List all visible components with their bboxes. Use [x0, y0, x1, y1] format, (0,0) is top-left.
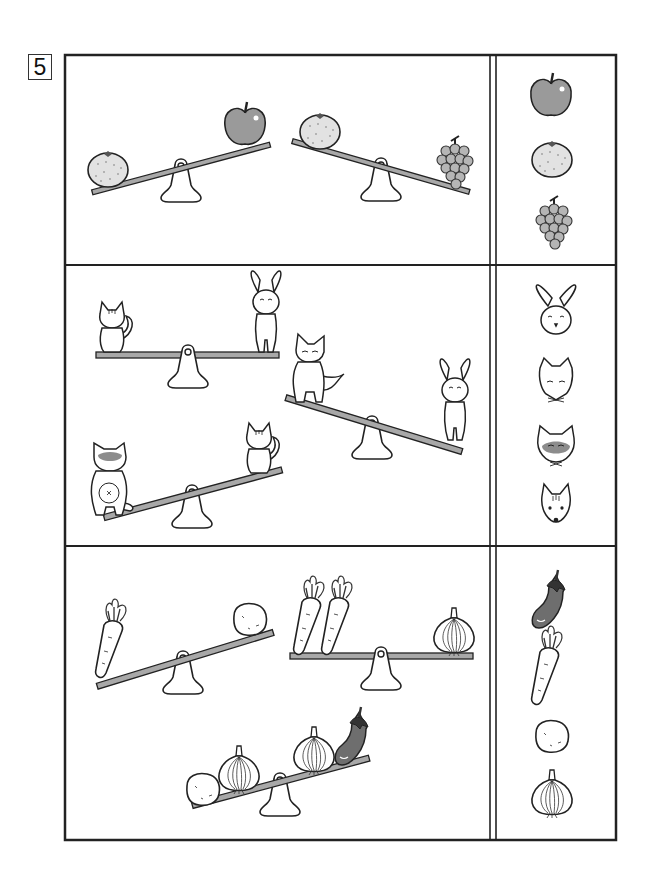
- carrot-icon: [294, 576, 324, 654]
- carrot-icon: [96, 599, 126, 677]
- onion-icon: [434, 608, 474, 656]
- onion-icon: [294, 727, 334, 775]
- seesaw-raccoon-vs-squirrel: [91, 423, 282, 528]
- rabbit-answer-icon[interactable]: [536, 285, 575, 334]
- orange-answer-icon[interactable]: [532, 141, 572, 177]
- seesaw-fox-vs-rabbit: [285, 334, 470, 459]
- fox-answer-icon[interactable]: [539, 358, 572, 402]
- answer-column-animals: [536, 285, 575, 522]
- raccoon-answer-icon[interactable]: [538, 426, 575, 466]
- grapes-answer-icon[interactable]: [536, 196, 572, 249]
- rabbit-icon: [251, 271, 281, 352]
- carrot-icon: [322, 576, 352, 654]
- squirrel-icon: [247, 423, 280, 473]
- answer-column-vegetables: [532, 570, 572, 818]
- apple-answer-icon[interactable]: [531, 73, 571, 115]
- orange-icon: [300, 113, 340, 149]
- fox-icon: [293, 334, 344, 402]
- raccoon-icon: [91, 443, 132, 515]
- worksheet-frame: [65, 55, 616, 840]
- worksheet-canvas: [0, 0, 649, 887]
- row-animals: [91, 271, 575, 528]
- seesaw-potato-onion-vs-onion-eggplant: [187, 707, 370, 816]
- carrot-answer-icon[interactable]: [532, 626, 562, 704]
- answer-column-fruits: [531, 73, 572, 249]
- squirrel-answer-icon[interactable]: [542, 484, 571, 522]
- apple-icon: [225, 102, 265, 144]
- onion-answer-icon[interactable]: [532, 770, 572, 818]
- row-fruits: [88, 73, 572, 249]
- seesaw-orange-vs-apple: [88, 102, 271, 202]
- row-vegetables: [96, 570, 572, 818]
- seesaw-carrot-vs-potato: [96, 599, 274, 694]
- eggplant-answer-icon[interactable]: [532, 570, 565, 628]
- potato-answer-icon[interactable]: [536, 721, 569, 753]
- seesaw-two-carrots-vs-onion: [290, 576, 474, 690]
- potato-icon: [187, 774, 220, 806]
- rabbit-icon: [440, 359, 470, 440]
- squirrel-icon: [100, 302, 133, 352]
- onion-icon: [219, 746, 259, 794]
- orange-icon: [88, 151, 128, 187]
- seesaw-orange-vs-grapes: [292, 113, 473, 201]
- potato-icon: [234, 604, 267, 636]
- seesaw-squirrel-vs-rabbit: [96, 271, 281, 388]
